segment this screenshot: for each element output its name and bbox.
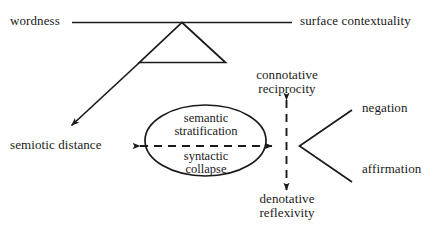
label-negation: negation bbox=[362, 101, 408, 115]
ellipse-top-line-1: semantic bbox=[184, 111, 228, 125]
label-wordness: wordness bbox=[10, 14, 60, 28]
label-semiotic-distance: semiotic distance bbox=[10, 138, 102, 152]
label-syntactic-collapse: syntactic collapse bbox=[184, 150, 228, 177]
triangle-shape bbox=[140, 23, 226, 63]
label-surface-contextuality: surface contextuality bbox=[300, 14, 411, 28]
v-connector bbox=[300, 110, 353, 182]
denotative-line-2: reflexivity bbox=[259, 205, 314, 220]
label-semantic-stratification: semantic stratification bbox=[174, 112, 237, 139]
ellipse-bottom-line-1: syntactic bbox=[184, 149, 228, 163]
ellipse-top-line-2: stratification bbox=[174, 124, 237, 138]
label-denotative-reflexivity: denotative reflexivity bbox=[259, 192, 314, 220]
connotative-line-1: connotative bbox=[256, 67, 318, 82]
diagonal-arrow bbox=[72, 63, 140, 126]
diagram-canvas: wordness surface contextuality semiotic … bbox=[0, 0, 442, 229]
label-connotative-reciprocity: connotative reciprocity bbox=[256, 68, 318, 96]
ellipse-bottom-line-2: collapse bbox=[186, 162, 227, 176]
connotative-line-2: reciprocity bbox=[258, 81, 315, 96]
label-affirmation: affirmation bbox=[362, 162, 421, 176]
denotative-line-1: denotative bbox=[259, 191, 314, 206]
